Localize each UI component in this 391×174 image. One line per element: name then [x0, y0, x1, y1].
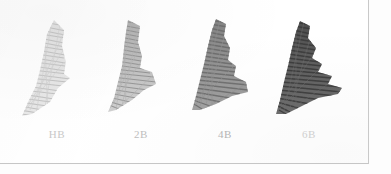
scanned-swatch-chart: HB — [0, 0, 391, 174]
swatch-cell-2b: 2B — [98, 16, 184, 161]
pencil-swatch-mark-4b — [182, 16, 268, 126]
scan-margin-bottom — [0, 165, 391, 174]
swatch-label-hb: HB — [14, 128, 100, 141]
pencil-swatch-mark-hb — [14, 16, 100, 126]
paper-sheet: HB — [0, 0, 369, 164]
scan-margin-right — [370, 0, 391, 174]
swatch-cell-hb: HB — [14, 16, 100, 161]
pencil-swatch-mark-6b — [266, 16, 352, 126]
swatch-label-2b: 2B — [98, 128, 184, 141]
pencil-swatch-mark-2b — [98, 16, 184, 126]
swatch-cell-6b: 6B — [266, 16, 352, 161]
swatch-cell-4b: 4B — [182, 16, 268, 161]
swatch-label-4b: 4B — [182, 128, 268, 141]
swatch-label-6b: 6B — [266, 128, 352, 141]
